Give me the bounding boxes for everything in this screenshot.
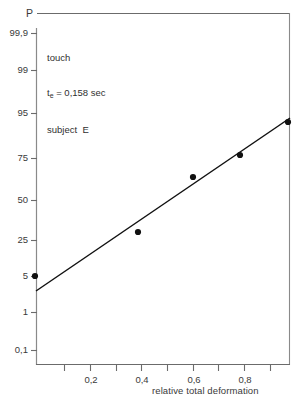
te-value: = 0,158 sec	[54, 87, 106, 98]
y-tick-label-25: 25	[2, 235, 28, 245]
x-tick-label-0-2: 0,2	[76, 375, 106, 385]
plot-canvas	[0, 0, 303, 401]
y-tick-label-0-1: 0,1	[2, 345, 28, 355]
y-tick-label-50: 50	[2, 195, 28, 205]
y-tick-label-1: 1	[2, 307, 28, 317]
y-tick-label-99-9: 99,9	[2, 28, 28, 38]
x-tick-label-0-4: 0,4	[127, 375, 157, 385]
annotation-line-te: te = 0,158 sec	[47, 87, 106, 102]
data-point	[237, 152, 243, 158]
y-tick-label-95: 95	[2, 108, 28, 118]
data-point	[285, 119, 291, 125]
y-axis-label-p: P	[26, 8, 33, 19]
annotation-block: touch te = 0,158 sec subject E	[47, 29, 106, 159]
y-tick-label-75: 75	[2, 153, 28, 163]
x-axis-ticks	[65, 365, 271, 371]
y-tick-label-99: 99	[2, 65, 28, 75]
data-point	[32, 273, 38, 279]
y-tick-label-5: 5	[2, 271, 28, 281]
annotation-line-touch: touch	[47, 52, 106, 64]
data-point	[135, 229, 141, 235]
probability-plot-chart: P touch te = 0,158 sec subject E 99,9 99…	[0, 0, 303, 401]
x-tick-label-0-8: 0,8	[230, 375, 260, 385]
x-axis-title: relative total deformation	[152, 386, 259, 396]
annotation-line-subject: subject E	[47, 124, 106, 136]
data-point	[190, 174, 196, 180]
x-tick-label-0-6: 0,6	[179, 375, 209, 385]
